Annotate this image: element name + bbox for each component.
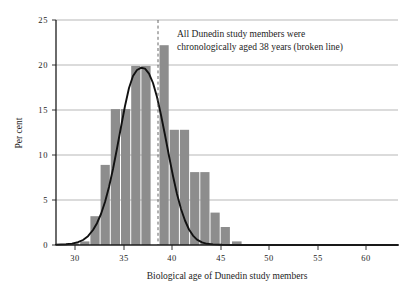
bar-38: [131, 66, 140, 245]
annotation-text: All Dunedin study members were chronolog…: [177, 29, 343, 53]
x-tick-label-55: 55: [313, 253, 323, 263]
bar-44: [200, 172, 209, 245]
chart-figure: 25 20 15 10 5 0 30 35 40 45 50 55 60 Bio…: [0, 0, 411, 297]
bar-34: [101, 165, 110, 245]
x-tick-label-30: 30: [70, 253, 80, 263]
annotation-line-2: chronologically aged 38 years (broken li…: [177, 42, 343, 53]
x-tick-labels: 30 35 40 45 50 55 60: [70, 253, 371, 263]
annotation-line-1: All Dunedin study members were: [177, 29, 305, 39]
bar-37: [121, 109, 130, 245]
x-tick-label-45: 45: [216, 253, 226, 263]
y-tick-label-15: 15: [38, 105, 48, 115]
histogram-bars: [70, 45, 242, 245]
bar-45: [211, 213, 220, 245]
y-tick-label-25: 25: [38, 15, 48, 25]
y-axis-title: Per cent: [14, 117, 24, 148]
x-tick-label-35: 35: [119, 253, 129, 263]
bar-39: [141, 66, 150, 245]
x-tick-label-40: 40: [167, 253, 177, 263]
y-tick-labels: 25 20 15 10 5 0: [38, 15, 48, 250]
y-tick-label-5: 5: [43, 195, 48, 205]
y-tick-label-20: 20: [38, 60, 48, 70]
histogram-chart-svg: 25 20 15 10 5 0 30 35 40 45 50 55 60 Bio…: [0, 0, 411, 297]
x-axis-title: Biological age of Dunedin study members: [147, 271, 308, 281]
bar-41: [170, 130, 179, 245]
bar-46: [221, 227, 230, 245]
x-tick-label-60: 60: [361, 253, 371, 263]
y-tick-label-10: 10: [38, 150, 48, 160]
y-tick-label-0: 0: [43, 240, 48, 250]
x-tick-label-50: 50: [264, 253, 274, 263]
